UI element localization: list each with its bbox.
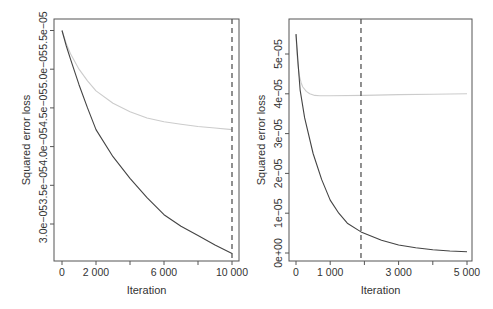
right-x-tick-label: 1 000	[317, 266, 343, 278]
left-x-axis-title: Iteration	[127, 284, 167, 296]
right-y-tick-label: 2e−05	[272, 158, 284, 188]
right-y-axis-title: Squared error loss	[255, 94, 267, 185]
left-dark-loss-curve	[62, 31, 232, 254]
right-y-tick-label: 4e−05	[272, 79, 284, 109]
right-x-axis-title: Iteration	[361, 284, 401, 296]
right-dark-loss-curve	[296, 34, 467, 252]
left-x-tick-label: 10 000	[216, 266, 248, 278]
left-panel: 02 0006 00010 0003.0e−053.5e−054.0e−054.…	[20, 11, 248, 296]
right-y-tick-label: 3e−05	[272, 119, 284, 149]
right-x-tick-label: 5 000	[454, 266, 480, 278]
left-x-tick-label: 6 000	[151, 266, 177, 278]
left-x-tick-label: 0	[59, 266, 65, 278]
left-y-tick-label: 4.0e−05	[37, 127, 49, 165]
left-y-tick-label: 5.0e−05	[37, 50, 49, 88]
right-panel: 01 0003 0005 0000e+001e−052e−053e−054e−0…	[255, 19, 480, 296]
left-plot-frame	[54, 19, 239, 261]
right-gray-loss-curve	[296, 34, 467, 96]
right-x-tick-label: 0	[293, 266, 299, 278]
left-x-tick-label: 2 000	[83, 266, 109, 278]
left-y-tick-label: 4.5e−05	[37, 89, 49, 127]
loss-curves-figure: 02 0006 00010 0003.0e−053.5e−054.0e−054.…	[0, 0, 493, 309]
right-y-tick-label: 1e−05	[272, 198, 284, 228]
right-x-tick-label: 3 000	[385, 266, 411, 278]
left-y-tick-label: 5.5e−05	[37, 11, 49, 49]
left-y-tick-label: 3.5e−05	[37, 166, 49, 204]
right-y-tick-label: 5e−05	[272, 39, 284, 69]
left-y-axis-title: Squared error loss	[20, 94, 32, 185]
left-y-tick-label: 3.0e−05	[37, 205, 49, 243]
left-gray-loss-curve	[62, 31, 232, 130]
right-y-tick-label: 0e+00	[272, 238, 284, 268]
right-plot-frame	[289, 19, 472, 261]
